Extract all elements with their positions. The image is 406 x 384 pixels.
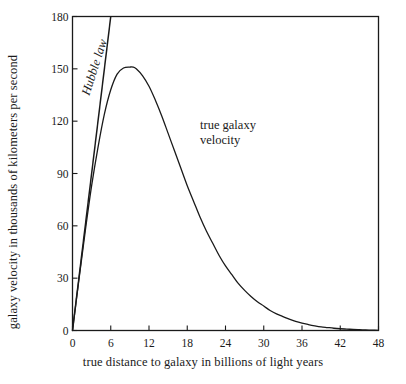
y-tick-label: 180 xyxy=(45,11,69,23)
x-tick-label: 30 xyxy=(258,337,270,349)
y-tick-label: 30 xyxy=(45,272,69,284)
annotation-line-2: velocity xyxy=(200,133,256,148)
chart-figure: 0612182430364248 0306090120150180 true d… xyxy=(0,0,406,384)
annotation-line-1: true galaxy xyxy=(200,118,256,133)
y-tick-label: 120 xyxy=(45,115,69,127)
plot-frame xyxy=(73,17,379,331)
x-tick-label: 12 xyxy=(143,337,155,349)
x-tick-label: 0 xyxy=(70,337,76,349)
true-galaxy-velocity-curve xyxy=(73,67,379,331)
y-tick-label: 90 xyxy=(45,168,69,180)
y-axis-ticks xyxy=(73,17,78,331)
x-axis-title: true distance to galaxy in billions of l… xyxy=(0,355,406,370)
x-tick-label: 48 xyxy=(373,337,385,349)
y-tick-label: 0 xyxy=(45,325,69,337)
y-axis-title: galaxy velocity in thousands of kilomete… xyxy=(6,55,21,329)
x-tick-label: 42 xyxy=(335,337,347,349)
x-tick-label: 24 xyxy=(220,337,232,349)
annotation-true-galaxy-velocity: true galaxy velocity xyxy=(200,118,256,149)
x-tick-label: 36 xyxy=(296,337,308,349)
x-tick-label: 6 xyxy=(108,337,114,349)
x-tick-label: 18 xyxy=(182,337,194,349)
y-tick-label: 150 xyxy=(45,63,69,75)
y-tick-label: 60 xyxy=(45,220,69,232)
